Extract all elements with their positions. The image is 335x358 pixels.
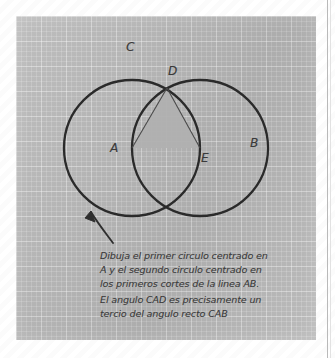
vertex-label-d: D xyxy=(168,64,178,78)
vertex-label-a: A xyxy=(110,141,119,155)
pointer-arrow-head-icon xyxy=(85,211,95,222)
caption-line-3: los primeros cortes de la linea AB. xyxy=(100,278,259,289)
vertex-label-e: E xyxy=(201,151,209,165)
pointer-arrow-icon xyxy=(91,212,113,243)
caption-line-5: tercio del angulo recto CAB xyxy=(100,308,228,319)
caption-line-1: Dibuja el primer circulo centrado en xyxy=(100,250,268,261)
caption-line-2: A y el segundo circulo centrado en xyxy=(100,264,262,275)
triangle-ADE-fill xyxy=(132,88,200,148)
vertex-label-c: C xyxy=(126,40,135,54)
page-edge-rule xyxy=(327,0,328,358)
scanned-page: C D A B E Dibuja el primer circulo centr… xyxy=(0,0,335,358)
vertex-label-b: B xyxy=(250,136,259,150)
caption-line-4: El angulo CAD es precisamente un xyxy=(100,294,261,305)
page-edge-rule-secondary xyxy=(330,0,331,358)
